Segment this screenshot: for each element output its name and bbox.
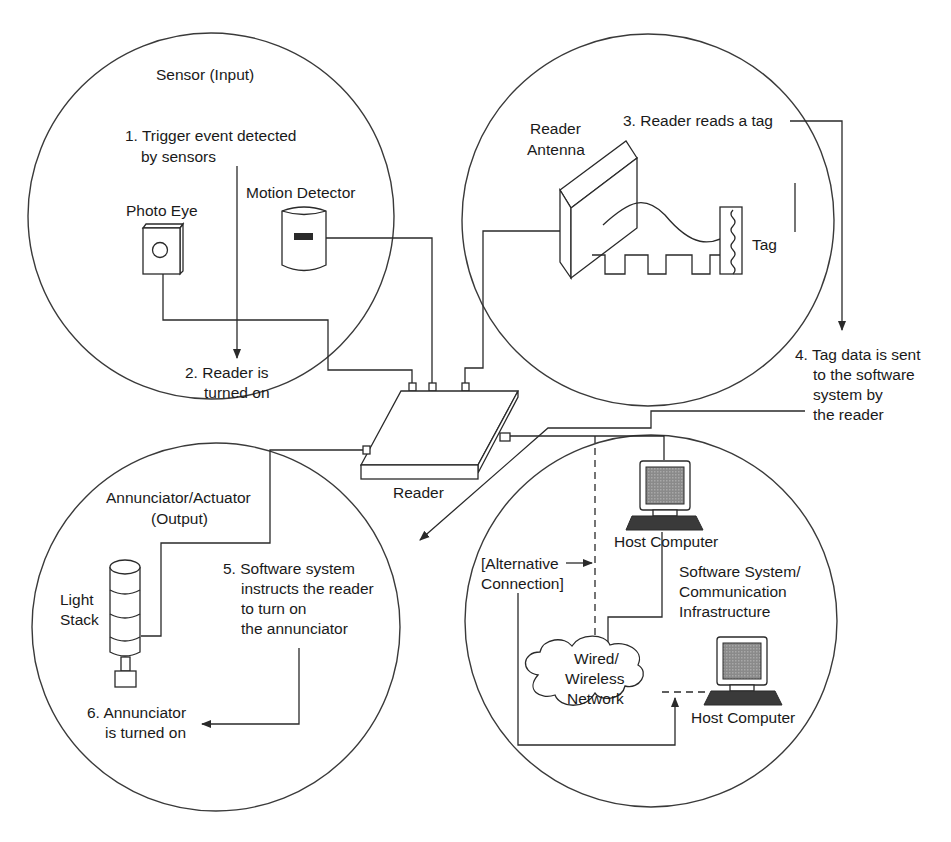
reader-to-host-wire [510, 436, 664, 460]
motion-detector-wire [326, 238, 432, 383]
step5-text-line4: the annunciator [241, 620, 348, 637]
step1-text-line2: by sensors [141, 148, 216, 165]
network-label-line2: Wireless [565, 670, 625, 687]
step4-text-line2: to the software [813, 366, 915, 383]
tag-label: Tag [752, 236, 777, 253]
antenna-label-line1: Reader [530, 120, 581, 137]
photo-eye-icon [143, 224, 183, 274]
antenna-label-line2: Antenna [527, 141, 585, 158]
sensor-zone-circle [28, 33, 394, 399]
software-heading-line2: Communication [679, 583, 787, 600]
tag-icon [720, 207, 742, 274]
motion-detector-label: Motion Detector [246, 184, 355, 201]
step6-text-line1: 6. Annunciator [87, 704, 186, 721]
step6-text-line2: is turned on [105, 724, 186, 741]
rfid-system-diagram: Sensor (Input) 1. Trigger event detected… [0, 0, 951, 842]
step4-text-line1: 4. Tag data is sent [795, 346, 921, 363]
alt-connection-label-line1: [Alternative [481, 555, 559, 572]
reader-label: Reader [393, 484, 444, 501]
host-computer-1-label: Host Computer [614, 533, 718, 550]
step5-text-line2: instructs the reader [241, 580, 374, 597]
step4-text-line3: system by [813, 386, 883, 403]
host-computer-icon [626, 461, 703, 530]
step3-text: 3. Reader reads a tag [623, 112, 773, 129]
step1-text-line1: 1. Trigger event detected [125, 127, 296, 144]
reader-device-icon [361, 383, 518, 479]
step5-text-line3: to turn on [241, 600, 307, 617]
step2-text-line1: 2. Reader is [185, 364, 269, 381]
host-computer-icon [704, 637, 782, 705]
photo-eye-label: Photo Eye [126, 202, 198, 219]
step5-to-step6-arrow [202, 648, 299, 724]
light-stack-label-line2: Stack [60, 611, 99, 628]
data-signal [592, 255, 720, 274]
software-heading-line3: Infrastructure [679, 603, 770, 620]
output-heading-line2: (Output) [151, 510, 208, 527]
antenna-wire [465, 231, 560, 383]
step5-text-line1: 5. Software system [223, 560, 355, 577]
network-label-line3: Network [567, 690, 624, 707]
light-stack-label-line1: Light [60, 591, 94, 608]
step2-text-line2: turned on [204, 384, 270, 401]
host-computer-2-label: Host Computer [691, 709, 795, 726]
motion-detector-icon [282, 207, 326, 271]
software-heading-line1: Software System/ [679, 563, 801, 580]
alt-connection-label-line2: Connection] [481, 575, 564, 592]
tag-read-zone-circle [462, 34, 834, 406]
sensor-zone-heading: Sensor (Input) [156, 66, 254, 83]
step4-text-line4: the reader [813, 406, 884, 423]
output-heading-line1: Annunciator/Actuator [106, 489, 251, 506]
light-stack-icon [110, 560, 140, 687]
network-label-line1: Wired/ [574, 650, 619, 667]
